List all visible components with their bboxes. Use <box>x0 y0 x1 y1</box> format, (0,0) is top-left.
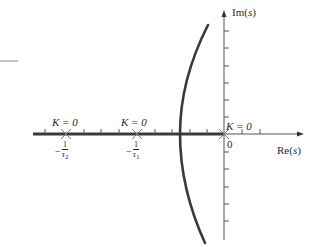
imaginary-axis-label: Im(s) <box>232 6 256 18</box>
fraction-denominator: τ1 <box>133 150 140 162</box>
imaginary-axis-arrow-icon <box>222 10 227 17</box>
imaginary-axis-label-var: s <box>248 6 252 18</box>
minus-sign: − <box>126 146 132 157</box>
real-axis-label-var: s <box>293 144 297 156</box>
tau-subscript: 1 <box>136 153 140 161</box>
real-axis-label-main: Re <box>277 144 289 156</box>
tau-subscript: 2 <box>65 153 69 161</box>
imaginary-axis-label-main: Im <box>232 6 244 18</box>
real-axis-arrow-icon <box>297 132 304 137</box>
pole-location-label-tau2: − 1 τ2 <box>55 140 68 162</box>
minus-sign: − <box>55 146 61 157</box>
gain-label-origin: K = 0 <box>226 120 252 132</box>
origin-label: 0 <box>227 138 233 150</box>
root-locus-diagram <box>0 0 311 247</box>
real-axis-label: Re(s) <box>277 144 301 156</box>
gain-label-tau1: K = 0 <box>121 116 147 128</box>
pole-location-label-tau1: − 1 τ1 <box>126 140 139 162</box>
gain-label-tau2: K = 0 <box>52 116 78 128</box>
fraction-denominator: τ2 <box>62 150 69 162</box>
